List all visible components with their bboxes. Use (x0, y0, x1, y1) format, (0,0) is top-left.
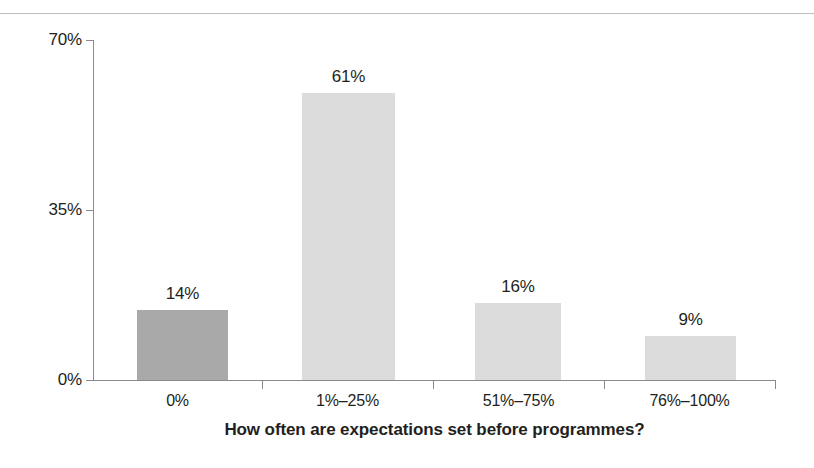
x-tick-mark-2 (433, 381, 434, 389)
bar-2[interactable] (475, 303, 561, 380)
y-tick-mark-0 (86, 380, 93, 381)
y-tick-mark-70 (86, 40, 93, 41)
x-tick-mark-3 (604, 381, 605, 389)
x-category-label-0: 0% (93, 391, 262, 410)
y-tick-mark-35 (86, 210, 93, 211)
y-tick-group-0: 0% (0, 380, 82, 381)
bar-chart-plot-area: 70% 35% 0% 14% 61% 16% 9% 0% 1%–25% 51%–… (0, 0, 814, 468)
x-axis-line (93, 380, 776, 381)
y-tick-label-70: 70% (49, 31, 82, 48)
y-tick-label-35: 35% (49, 201, 82, 218)
y-tick-label-0: 0% (58, 371, 82, 388)
x-tick-mark-1 (262, 381, 263, 389)
bar-3[interactable] (645, 336, 736, 380)
x-axis-title: How often are expectations set before pr… (93, 421, 776, 440)
x-category-label-1: 1%–25% (262, 391, 433, 410)
bar-value-label-0: 14% (137, 285, 228, 302)
bar-0[interactable] (137, 310, 228, 380)
chart-figure: 70% 35% 0% 14% 61% 16% 9% 0% 1%–25% 51%–… (0, 0, 814, 468)
bar-value-label-1: 61% (302, 68, 395, 85)
y-tick-group-35: 35% (0, 210, 82, 211)
x-category-label-3: 76%–100% (604, 391, 775, 410)
y-axis-line (93, 40, 94, 381)
bar-value-label-2: 16% (475, 278, 561, 295)
bar-value-label-3: 9% (645, 311, 736, 328)
x-tick-mark-4 (775, 381, 776, 389)
x-category-label-2: 51%–75% (433, 391, 604, 410)
y-tick-group-70: 70% (0, 40, 82, 41)
bar-1[interactable] (302, 93, 395, 380)
